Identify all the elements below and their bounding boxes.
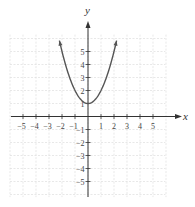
x-tick-label: −2 <box>56 122 65 131</box>
y-tick-label: −3 <box>76 152 85 161</box>
y-tick-label: 5 <box>81 48 85 57</box>
x-tick-label: 3 <box>125 122 129 131</box>
y-axis-arrow-icon <box>86 21 91 28</box>
parabola-chart: −5−4−3−2−112345−5−4−3−2−112345 x y <box>0 0 195 207</box>
y-tick-label: 4 <box>81 61 85 70</box>
x-tick-label: −4 <box>30 122 39 131</box>
x-tick-label: 4 <box>138 122 142 131</box>
x-tick-label: 1 <box>99 122 103 131</box>
y-tick-label: 3 <box>81 74 85 83</box>
y-tick-label: −5 <box>76 178 85 187</box>
x-axis-label: x <box>182 110 188 122</box>
y-tick-label: −4 <box>76 165 85 174</box>
y-tick-label: −1 <box>76 126 85 135</box>
y-axis-label: y <box>84 4 90 16</box>
x-tick-label: −5 <box>17 122 26 131</box>
y-tick-label: 2 <box>81 87 85 96</box>
y-tick-label: −2 <box>76 139 85 148</box>
x-tick-label: −3 <box>43 122 52 131</box>
x-axis-arrow-icon <box>175 114 182 119</box>
x-tick-label: 2 <box>112 122 116 131</box>
axes <box>11 21 182 197</box>
x-tick-label: 5 <box>151 122 155 131</box>
